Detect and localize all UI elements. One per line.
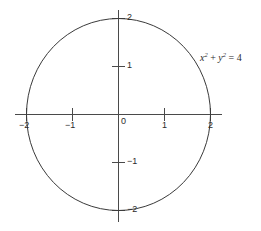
circle-graph-figure: 0 −2 −1 1 2 2 1 −1 −2 x2 + y2 = 4 bbox=[0, 0, 261, 231]
y-tick-label-minus1: −1 bbox=[127, 157, 137, 166]
x-tick-label-plus2: 2 bbox=[208, 121, 213, 130]
x-tick-label-plus1: 1 bbox=[162, 121, 167, 130]
y-tick-label-minus2: −2 bbox=[127, 205, 137, 214]
equation-rhs: 4 bbox=[237, 52, 242, 63]
equation-annotation: x2 + y2 = 4 bbox=[200, 53, 242, 63]
x-tick-label-minus2: −2 bbox=[19, 121, 29, 130]
y-tick-label-plus2: 2 bbox=[127, 13, 132, 22]
equation-equals: = bbox=[226, 52, 237, 63]
origin-label: 0 bbox=[121, 117, 126, 126]
plot-canvas bbox=[0, 0, 261, 231]
y-tick-label-plus1: 1 bbox=[127, 61, 132, 70]
equation-plus: + bbox=[208, 52, 219, 63]
x-tick-label-minus1: −1 bbox=[65, 121, 75, 130]
